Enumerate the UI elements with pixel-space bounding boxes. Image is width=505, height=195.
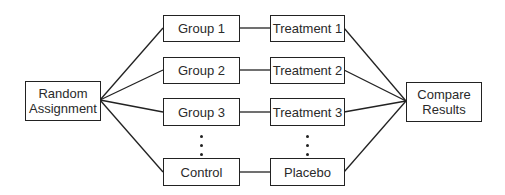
treatment-2-node: Treatment 2 xyxy=(270,57,345,84)
treatment-1-label: Treatment 1 xyxy=(273,21,343,36)
compare-results-node: Compare Results xyxy=(406,82,482,122)
placebo-node: Placebo xyxy=(270,158,345,186)
treatment-1-node: Treatment 1 xyxy=(270,15,345,42)
random-assignment-label-line1: Random xyxy=(38,86,87,101)
group-1-label: Group 1 xyxy=(178,21,225,36)
edge-treatment2-compare xyxy=(344,70,406,101)
treatment-3-label: Treatment 3 xyxy=(273,105,343,120)
compare-results-label-line1: Compare xyxy=(417,87,470,102)
edge-random-group2 xyxy=(100,70,163,100)
random-assignment-label-line2: Assignment xyxy=(29,101,97,116)
treatment-2-label: Treatment 2 xyxy=(273,63,343,78)
random-assignment-node: Random Assignment xyxy=(25,81,101,121)
edge-treatment3-compare xyxy=(344,101,406,112)
edge-placebo-compare xyxy=(344,101,406,172)
treatment-3-node: Treatment 3 xyxy=(270,98,345,126)
treatments-ellipsis xyxy=(304,132,310,159)
group-2-node: Group 2 xyxy=(163,57,240,84)
group-3-node: Group 3 xyxy=(163,98,240,126)
group-1-node: Group 1 xyxy=(163,15,240,42)
control-node: Control xyxy=(163,158,240,186)
groups-ellipsis xyxy=(198,132,204,159)
edge-treatment1-compare xyxy=(344,28,406,101)
experiment-design-diagram: Random Assignment Group 1 Group 2 Group … xyxy=(0,0,505,195)
placebo-label: Placebo xyxy=(284,165,331,180)
group-2-label: Group 2 xyxy=(178,63,225,78)
compare-results-label-line2: Results xyxy=(422,102,465,117)
edge-random-group1 xyxy=(100,28,163,100)
group-3-label: Group 3 xyxy=(178,105,225,120)
control-label: Control xyxy=(181,165,223,180)
